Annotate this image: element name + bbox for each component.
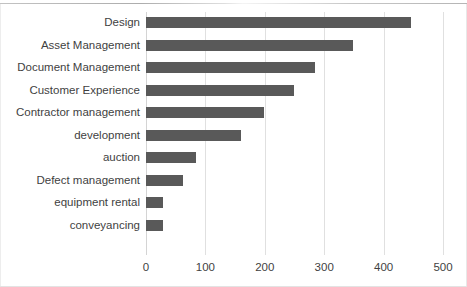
category-label: equipment rental — [54, 193, 140, 212]
bar — [146, 85, 294, 96]
bar-row: conveyancing — [146, 215, 443, 238]
bar — [146, 130, 241, 141]
bar — [146, 62, 315, 73]
bar-row: Document Management — [146, 57, 443, 80]
plot-area: DesignAsset ManagementDocument Managemen… — [146, 12, 443, 255]
category-label: Document Management — [17, 58, 140, 77]
category-label: conveyancing — [70, 216, 140, 235]
bar-row: development — [146, 125, 443, 148]
x-tick-label: 100 — [196, 261, 215, 273]
category-label: Design — [104, 13, 140, 32]
x-tick-label: 500 — [433, 261, 452, 273]
bar-row: auction — [146, 147, 443, 170]
bar — [146, 175, 183, 186]
bar — [146, 220, 163, 231]
bar — [146, 197, 163, 208]
scan-edge-left — [0, 4, 1, 286]
category-label: development — [74, 126, 140, 145]
gridline-500 — [443, 12, 444, 255]
bar — [146, 152, 196, 163]
bar — [146, 107, 264, 118]
category-label: Asset Management — [41, 36, 140, 55]
x-tick-label: 400 — [374, 261, 393, 273]
x-tick-label: 0 — [143, 261, 149, 273]
bar-row: Defect management — [146, 170, 443, 193]
bar — [146, 40, 353, 51]
bar-chart: DesignAsset ManagementDocument Managemen… — [0, 0, 467, 287]
category-label: Defect management — [36, 171, 140, 190]
category-label: auction — [103, 148, 140, 167]
bar-row: equipment rental — [146, 192, 443, 215]
scan-edge-top — [0, 3, 467, 4]
bar-row: Customer Experience — [146, 80, 443, 103]
x-tick-label: 200 — [255, 261, 274, 273]
bar-row: Asset Management — [146, 35, 443, 58]
category-label: Customer Experience — [29, 81, 140, 100]
category-label: Contractor management — [16, 103, 140, 122]
x-tick-label: 300 — [315, 261, 334, 273]
bar-row: Design — [146, 12, 443, 35]
bar — [146, 17, 411, 28]
bar-row: Contractor management — [146, 102, 443, 125]
